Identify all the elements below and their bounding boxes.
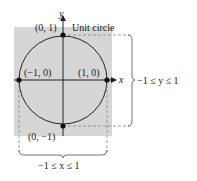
x-range-brace [19,150,107,158]
point-bottom [60,123,65,128]
x-axis-label: x [118,74,124,85]
y-range-brace [128,35,135,126]
point-label-right: (1, 0) [78,67,100,79]
point-label-bottom: (0, −1) [28,131,55,143]
x-range-label: −1 ≤ x ≤ 1 [38,160,80,171]
point-right [104,77,109,82]
unit-circle-label: Unit circle [72,22,115,33]
y-range-label: −1 ≤ y ≤ 1 [137,75,179,86]
diagram-canvas: y x (0, 1) Unit circle (−1, 0) (1, 0) (0… [0,0,197,181]
unit-circle-diagram: y x (0, 1) Unit circle (−1, 0) (1, 0) (0… [0,0,197,181]
point-top [60,32,65,37]
point-label-left: (−1, 0) [24,67,51,79]
y-axis-label: y [58,8,64,19]
point-label-top: (0, 1) [35,22,57,34]
point-left [16,77,21,82]
